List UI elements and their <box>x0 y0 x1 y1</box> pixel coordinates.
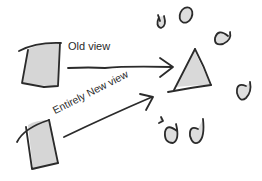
cone-triangle <box>168 49 211 92</box>
old-view-label: Old view <box>68 40 110 52</box>
diagram-canvas: Old view Entirely New view <box>0 0 262 181</box>
new-view-panel <box>17 120 58 170</box>
sketch-drawing <box>0 0 262 181</box>
old-view-panel <box>19 43 61 87</box>
